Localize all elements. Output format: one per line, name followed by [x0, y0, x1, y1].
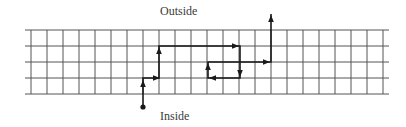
arrow-up-icon — [156, 47, 162, 54]
arrow-left-icon — [209, 75, 216, 81]
grid — [25, 30, 389, 94]
start-dot — [140, 104, 145, 109]
grid-path-diagram — [0, 0, 406, 127]
arrow-up-icon — [268, 15, 274, 22]
arrow-up-icon — [205, 63, 211, 70]
arrow-up-icon — [140, 80, 146, 87]
arrow-down-icon — [237, 70, 243, 77]
arrow-right-icon — [232, 43, 239, 49]
arrow-right-icon — [263, 59, 270, 65]
